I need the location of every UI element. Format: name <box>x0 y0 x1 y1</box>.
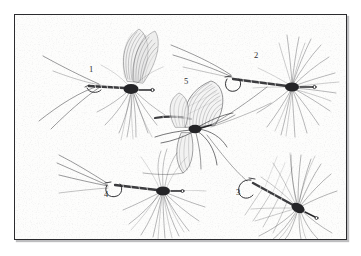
illustration-plate: 1 2 3 4 5 <box>0 0 361 256</box>
figure-label-3: 3 <box>236 188 240 197</box>
figure-label-2: 2 <box>254 51 258 60</box>
figure-label-4: 4 <box>104 190 108 199</box>
fly-plate-artwork <box>15 15 346 239</box>
plate-canvas: 1 2 3 4 5 <box>15 15 346 239</box>
figure-label-5: 5 <box>184 77 188 86</box>
figure-label-1: 1 <box>89 65 93 74</box>
plate-frame-border: 1 2 3 4 5 <box>14 14 347 240</box>
